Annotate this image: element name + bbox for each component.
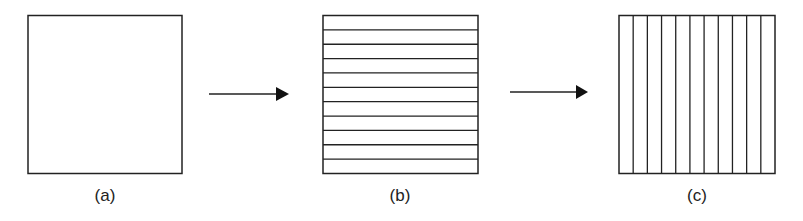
panel-a-label: (a) (75, 186, 135, 206)
arrow-a-to-b (209, 87, 289, 101)
panel-c-vertical-strips (619, 16, 775, 174)
panel-a-square (28, 16, 182, 174)
panel-b-label: (b) (370, 186, 430, 206)
panel-b-horizontal-strips (323, 16, 478, 174)
arrow-b-to-c (510, 85, 588, 99)
panel-c-label: (c) (667, 186, 727, 206)
